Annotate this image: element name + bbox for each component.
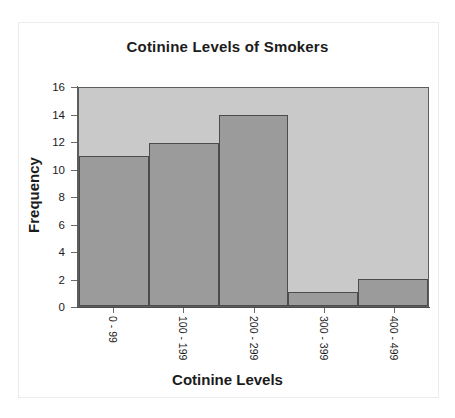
x-axis-category-labels: 0 - 99100 - 199200 - 299300 - 399400 - 4… — [78, 316, 429, 368]
x-axis-tick-cell — [148, 308, 218, 314]
y-axis-tick-mark — [71, 115, 77, 116]
x-axis-tick-mark — [324, 308, 325, 313]
bar[interactable] — [79, 156, 149, 306]
y-axis-tick-label: 2 — [25, 274, 65, 286]
x-axis-category-cell: 100 - 199 — [148, 316, 218, 368]
bar[interactable] — [288, 292, 358, 306]
bar-series — [79, 88, 428, 306]
x-axis-category-cell: 200 - 299 — [218, 316, 288, 368]
x-axis-tick-mark — [113, 308, 114, 313]
y-axis-tick-label: 12 — [25, 136, 65, 148]
bar[interactable] — [219, 115, 289, 306]
x-axis-category-cell: 300 - 399 — [289, 316, 359, 368]
y-axis-tick-label: 8 — [25, 191, 65, 203]
y-axis-tick-mark — [71, 197, 77, 198]
y-axis-tick-mark — [71, 225, 77, 226]
x-axis-title: Cotinine Levels — [0, 371, 455, 388]
x-axis-tick-mark — [394, 308, 395, 313]
x-axis-category-label: 100 - 199 — [177, 316, 189, 360]
bar-cell — [288, 88, 358, 306]
bar[interactable] — [358, 279, 428, 306]
x-axis-category-label: 0 - 99 — [107, 316, 119, 343]
x-axis-tick-cell — [289, 308, 359, 314]
y-axis-tick-label: 16 — [25, 81, 65, 93]
bar-cell — [149, 88, 219, 306]
y-axis-tick-label: 6 — [25, 219, 65, 231]
x-axis-category-cell: 400 - 499 — [359, 316, 429, 368]
chart-figure: Cotinine Levels of Smokers Frequency 161… — [0, 0, 455, 418]
x-axis-category-cell: 0 - 99 — [78, 316, 148, 368]
x-axis-tick-cell — [218, 308, 288, 314]
bar-cell — [79, 88, 149, 306]
x-axis-tick-mark — [254, 308, 255, 313]
bar[interactable] — [149, 143, 219, 307]
x-axis-ticks — [78, 308, 429, 314]
plot-area — [78, 87, 429, 307]
y-axis-tick-label: 0 — [25, 301, 65, 313]
chart-title: Cotinine Levels of Smokers — [0, 38, 455, 55]
y-axis-tick-label: 4 — [25, 246, 65, 258]
x-axis-category-label: 300 - 399 — [318, 316, 330, 360]
y-axis-tick-mark — [71, 170, 77, 171]
y-axis-tick-label: 10 — [25, 164, 65, 176]
y-axis-line — [77, 86, 78, 308]
bar-cell — [219, 88, 289, 306]
x-axis-tick-cell — [359, 308, 429, 314]
bar-cell — [358, 88, 428, 306]
y-axis-tick-mark — [71, 87, 77, 88]
x-axis-category-label: 400 - 499 — [388, 316, 400, 360]
y-axis-tick-mark — [71, 142, 77, 143]
y-axis-tick-mark — [71, 252, 77, 253]
y-axis-tick-mark — [71, 280, 77, 281]
x-axis-tick-mark — [183, 308, 184, 313]
x-axis-tick-cell — [78, 308, 148, 314]
y-axis-tick-label: 14 — [25, 109, 65, 121]
x-axis-category-label: 200 - 299 — [248, 316, 260, 360]
